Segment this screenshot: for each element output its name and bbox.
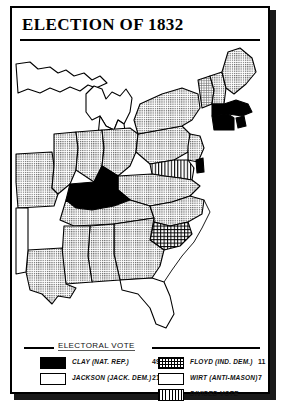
- state-missouri: [16, 152, 58, 208]
- state-florida-territory: [120, 278, 174, 328]
- legend-rule-right: [152, 347, 260, 349]
- legend-label-floyd: FLOYD (IND. DEM.): [190, 358, 253, 365]
- legend-item-clay: CLAY (NAT. REP.) 49: [40, 356, 170, 372]
- state-mississippi: [62, 226, 92, 284]
- legend-item-jackson: JACKSON (JACK. DEM.) 219: [40, 372, 170, 388]
- map-svg: [14, 42, 266, 342]
- legend-item-divided: DIVIDED VOTE: [158, 388, 268, 404]
- arkansas-territory-outline: [16, 208, 28, 274]
- state-michigan-territory: [86, 86, 132, 130]
- legend-swatch-wirt: [158, 373, 184, 385]
- state-new-york: [134, 88, 200, 134]
- title-bar: ELECTION OF 1832: [12, 8, 268, 40]
- legend-label-jackson: JACKSON (JACK. DEM.): [72, 374, 151, 381]
- legend-label-wirt: WIRT (ANTI-MASON): [190, 374, 258, 381]
- legend-swatch-floyd: [158, 357, 184, 369]
- map-poster-frame: ELECTION OF 1832: [10, 6, 270, 394]
- state-connecticut: [212, 114, 234, 130]
- legend-votes-floyd: 11: [258, 358, 265, 365]
- legend-votes-wirt: 7: [258, 374, 262, 381]
- page-title: ELECTION OF 1832: [22, 12, 268, 38]
- legend-label-divided: DIVIDED VOTE: [190, 390, 238, 397]
- legend-column-left: CLAY (NAT. REP.) 49 JACKSON (JACK. DEM.)…: [40, 356, 170, 388]
- legend-item-wirt: WIRT (ANTI-MASON) 7: [158, 372, 268, 388]
- legend-swatch-jackson: [40, 373, 66, 385]
- state-new-jersey: [188, 134, 204, 162]
- election-map: [14, 42, 266, 342]
- legend-swatch-clay: [40, 357, 66, 369]
- state-delaware: [196, 158, 204, 173]
- legend-item-floyd: FLOYD (IND. DEM.) 11: [158, 356, 268, 372]
- legend-heading-row: ELECTORAL VOTE: [18, 342, 264, 355]
- state-rhode-island: [236, 116, 246, 128]
- state-maine: [222, 48, 256, 94]
- legend-swatch-divided: [158, 389, 184, 401]
- legend-rule-left: [24, 347, 54, 349]
- title-divider-rule: [20, 39, 260, 41]
- legend-label-clay: CLAY (NAT. REP.): [72, 358, 129, 365]
- legend-heading: ELECTORAL VOTE: [58, 341, 135, 351]
- legend-column-right: FLOYD (IND. DEM.) 11 WIRT (ANTI-MASON) 7…: [158, 356, 268, 404]
- map-legend: ELECTORAL VOTE CLAY (NAT. REP.) 49 JACKS…: [18, 342, 264, 392]
